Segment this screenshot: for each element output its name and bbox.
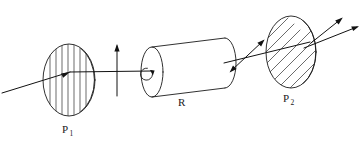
beam-p1-to-medium — [70, 71, 152, 72]
label-medium-r: R — [178, 96, 186, 108]
r-label: R — [178, 96, 186, 108]
label-polarizer-p1: P 1 — [62, 123, 74, 138]
p1-hatch-lines — [50, 40, 86, 120]
analyzer-p2 — [238, 16, 360, 140]
optics-figure: P 1 R — [0, 0, 362, 145]
p2-hatch-lines — [238, 18, 360, 140]
rotatory-medium-cylinder — [141, 38, 236, 97]
vertical-polarization-arrow — [114, 44, 119, 96]
p2-label-subscript: 2 — [291, 98, 295, 107]
rotated-polarization-arrow — [230, 39, 265, 72]
polarizer-p1 — [43, 40, 95, 120]
p2-label-base: P — [283, 92, 289, 104]
p1-label-base: P — [62, 123, 68, 135]
incident-light-ray — [2, 72, 70, 93]
label-analyzer-p2: P 2 — [283, 92, 295, 107]
rotation-direction-arrow-icon — [141, 68, 155, 80]
optics-diagram-svg: P 1 R — [0, 0, 362, 145]
p1-label-subscript: 1 — [70, 129, 74, 138]
